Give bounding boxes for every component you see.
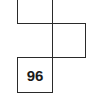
grid-cell-right <box>52 23 86 58</box>
grid-cell-top <box>17 0 53 24</box>
grid-cell-bottom: 96 <box>17 57 53 93</box>
cell-value-label: 96 <box>27 68 44 83</box>
